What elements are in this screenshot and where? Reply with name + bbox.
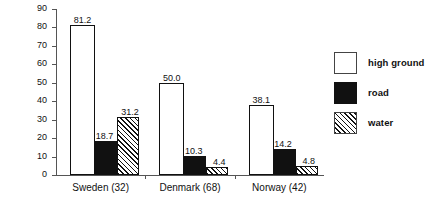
bar-value-label: 81.2 [74,15,92,25]
y-axis-tick-label: 70 [37,40,47,50]
y-axis-tick: 30 [52,120,56,121]
y-axis-tick: 20 [52,138,56,139]
legend-swatch-water [334,112,357,134]
chart-legend: high groundroadwater [334,52,444,142]
y-axis-tick-label: 30 [37,114,47,124]
bar-value-label: 18.7 [96,131,114,141]
y-axis-tick-label: 90 [37,3,47,13]
x-axis-category-label: Denmark (68) [159,182,220,193]
bar-high-ground: 50.0 [159,83,184,175]
legend-swatch-high-ground [334,52,357,74]
x-axis-tick [235,175,236,179]
bar-road: 10.3 [184,156,206,175]
y-axis-tick-label: 10 [37,151,47,161]
y-axis-tick: 0 [52,175,56,176]
x-axis-line [56,175,324,176]
bar-water: 31.2 [117,117,139,175]
y-axis-tick: 10 [52,157,56,158]
bar-high-ground: 81.2 [70,25,95,175]
legend-label: water [368,117,393,128]
bar-road: 14.2 [274,149,296,175]
y-axis-line [56,9,57,175]
y-axis-tick: 60 [52,64,56,65]
y-axis-tick-label: 0 [42,169,47,179]
bar-chart: categories (in percent) 0102030405060708… [0,0,444,218]
bar-value-label: 31.2 [121,107,139,117]
bar-value-label: 38.1 [252,95,270,105]
bar-water: 4.4 [206,167,228,175]
y-axis-tick: 80 [52,27,56,28]
legend-label: high ground [368,57,425,68]
legend-item: high ground [334,52,444,82]
bar-value-label: 50.0 [163,73,181,83]
y-axis-tick-label: 40 [37,95,47,105]
legend-label: road [368,87,389,98]
bar-high-ground: 38.1 [249,105,274,175]
legend-swatch-road [334,82,357,104]
y-axis-tick-label: 20 [37,132,47,142]
bar-value-label: 14.2 [274,139,292,149]
y-axis-tick-label: 80 [37,21,47,31]
y-axis-tick-label: 60 [37,58,47,68]
legend-item: road [334,82,444,112]
y-axis-tick: 70 [52,46,56,47]
bar-value-label: 4.8 [302,156,315,166]
bar-water: 4.8 [296,166,318,175]
x-axis-tick [145,175,146,179]
bar-value-label: 10.3 [185,146,203,156]
x-axis-category-label: Norway (42) [252,182,306,193]
bar-value-label: 4.4 [213,157,226,167]
bar-road: 18.7 [95,141,117,175]
y-axis-tick-label: 50 [37,77,47,87]
y-axis-tick: 40 [52,101,56,102]
y-axis-tick: 90 [52,9,56,10]
y-axis-tick: 50 [52,83,56,84]
legend-item: water [334,112,444,142]
plot-area: 0102030405060708090 81.218.731.250.010.3… [56,9,324,175]
x-axis-category-label: Sweden (32) [72,182,129,193]
